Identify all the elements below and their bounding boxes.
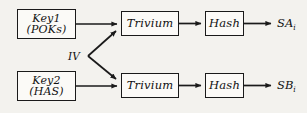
node-trivium-bottom-label: Trivium bbox=[127, 80, 174, 92]
node-key1-line2: (POKs) bbox=[26, 24, 66, 35]
node-trivium-top[interactable]: Trivium bbox=[121, 11, 179, 36]
label-iv-text: IV bbox=[68, 50, 80, 62]
label-output-bottom-subscript: i bbox=[293, 85, 295, 94]
node-key2-line2: (HAS) bbox=[29, 86, 64, 97]
node-hash-bottom[interactable]: Hash bbox=[205, 73, 244, 98]
node-trivium-top-label: Trivium bbox=[127, 18, 174, 30]
label-output-top-subscript: i bbox=[293, 23, 295, 32]
node-hash-top-label: Hash bbox=[209, 18, 240, 30]
label-output-bottom-base: SB bbox=[277, 78, 293, 92]
label-output-top-base: SA bbox=[277, 16, 293, 30]
node-key1[interactable]: Key1 (POKs) bbox=[17, 9, 76, 39]
node-key2[interactable]: Key2 (HAS) bbox=[17, 71, 76, 101]
edge-iv-to-trivium-top bbox=[88, 31, 116, 56]
diagram-canvas: Key1 (POKs) Key2 (HAS) Trivium Trivium H… bbox=[0, 0, 307, 113]
label-output-top: SAi bbox=[277, 16, 296, 32]
node-hash-top[interactable]: Hash bbox=[205, 11, 244, 36]
node-trivium-bottom[interactable]: Trivium bbox=[121, 73, 179, 98]
label-output-bottom: SBi bbox=[277, 78, 296, 94]
edge-iv-to-trivium-bottom bbox=[88, 56, 116, 79]
node-hash-bottom-label: Hash bbox=[209, 80, 240, 92]
label-iv: IV bbox=[68, 50, 80, 62]
